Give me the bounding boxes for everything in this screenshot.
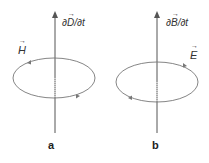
loop-label-a: H <box>18 44 26 56</box>
panel-label-b: b <box>152 139 159 151</box>
axis-arrowhead-b-icon <box>154 11 160 18</box>
time-derivative: /∂t <box>178 17 189 28</box>
loop-label-b: E <box>190 49 197 61</box>
vector-b: B <box>171 17 178 28</box>
panel-b <box>116 11 198 133</box>
vector-e: E <box>190 49 197 61</box>
axis-arrowhead-a-icon <box>52 11 58 18</box>
panel-label-a: a <box>48 139 54 151</box>
vector-h: H <box>18 44 26 56</box>
field-loop-a <box>13 58 95 98</box>
time-derivative: /∂t <box>74 17 85 28</box>
loop-arrow-b1-icon <box>183 63 187 68</box>
panel-a <box>13 11 95 133</box>
axis-label-b: ∂B/∂t <box>166 17 188 28</box>
vector-d: D <box>67 17 74 28</box>
axis-label-a: ∂D/∂t <box>62 17 85 28</box>
